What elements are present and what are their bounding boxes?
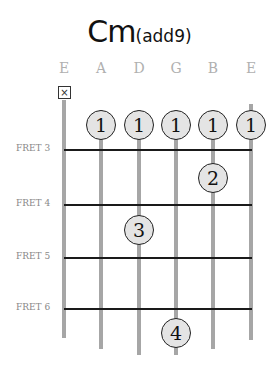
finger-marker: 1 — [86, 110, 116, 140]
fret-line — [64, 204, 252, 206]
string-line — [99, 110, 103, 349]
finger-marker: 1 — [124, 110, 154, 140]
fret-label: FRET 5 — [16, 251, 46, 261]
fret-label: FRET 6 — [16, 302, 46, 312]
fret-label: FRET 3 — [16, 143, 46, 153]
finger-marker: 2 — [198, 163, 228, 193]
chord-title: Cm(add9) — [0, 14, 279, 49]
string-label: G — [166, 60, 186, 76]
fret-line — [64, 308, 252, 310]
string-label: E — [241, 60, 261, 76]
finger-marker: 3 — [124, 215, 154, 245]
fret-line — [64, 257, 252, 259]
chord-name: Cm — [87, 14, 135, 49]
finger-marker: 1 — [236, 110, 266, 140]
fret-label: FRET 4 — [16, 198, 46, 208]
chord-suffix: (add9) — [136, 26, 192, 46]
finger-marker: 1 — [198, 110, 228, 140]
string-label: D — [129, 60, 149, 76]
finger-marker: 1 — [161, 110, 191, 140]
fret-line — [64, 149, 252, 151]
muted-string-icon: × — [58, 86, 71, 99]
string-label: A — [91, 60, 111, 76]
string-line — [211, 110, 215, 349]
string-line — [62, 100, 66, 338]
finger-marker: 4 — [161, 318, 191, 348]
string-label: E — [54, 60, 74, 76]
string-label: B — [203, 60, 223, 76]
